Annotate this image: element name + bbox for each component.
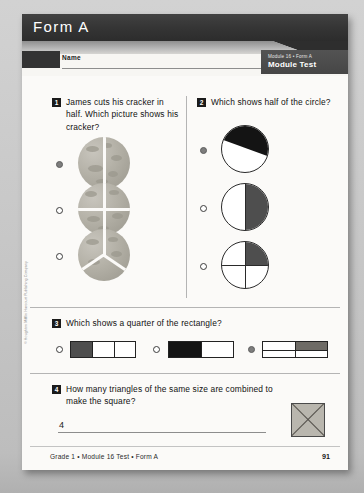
name-label: Name: [62, 54, 81, 61]
badge-module-form: Module 16 • Form A: [268, 53, 348, 60]
name-input-line[interactable]: [62, 68, 278, 69]
name-field-row: Name: [62, 54, 280, 71]
q3-choice-2-figure[interactable]: [168, 341, 234, 358]
q1-choice-3-bullet[interactable]: [56, 253, 63, 260]
question-4-figure-square: [291, 403, 325, 437]
rect-shaded-half: [169, 342, 201, 357]
q3-choice-3-bullet[interactable]: [248, 346, 255, 353]
question-4-answer[interactable]: 4: [59, 420, 64, 430]
page-title: Form A: [33, 18, 90, 35]
q3-choice-2-bullet[interactable]: [153, 346, 160, 353]
q1-choice-1-bullet[interactable]: [56, 161, 63, 168]
rect-divider: [114, 342, 115, 357]
q3-choice-1-bullet[interactable]: [56, 346, 63, 353]
q3-choice-1-figure[interactable]: [70, 341, 136, 358]
question-4-text: How many triangles of the same size are …: [66, 383, 281, 408]
rect-divider: [201, 342, 202, 357]
q1-choice-2-figure[interactable]: [78, 183, 130, 235]
q2-choice-1-bullet[interactable]: [200, 147, 207, 154]
q1-choice-1-figure[interactable]: [78, 137, 130, 189]
section-divider-1: [30, 307, 340, 308]
column-divider: [186, 96, 187, 298]
page-footer: Grade 1 • Module 16 Test • Form A 91: [22, 446, 348, 470]
copyright-notice: © Houghton Mifflin Harcourt Publishing C…: [24, 261, 28, 344]
section-divider-2: [30, 373, 340, 374]
worksheet-body: © Houghton Mifflin Harcourt Publishing C…: [22, 76, 348, 470]
question-4-number: 4: [52, 385, 61, 394]
q2-choice-2-bullet[interactable]: [200, 205, 207, 212]
q1-choice-2-bullet[interactable]: [56, 207, 63, 214]
rect-shaded-third: [71, 342, 92, 357]
cracker-thirds: [78, 229, 130, 281]
question-2-text: Which shows half of the circle?: [211, 96, 339, 108]
q2-choice-3-figure[interactable]: [221, 241, 269, 289]
circle-quarter-shading: [245, 242, 268, 265]
question-1-text: James cuts his cracker in half. Which pi…: [66, 96, 181, 133]
q2-choice-2-figure[interactable]: [221, 183, 269, 231]
rect-shaded-quarter: [295, 342, 327, 350]
footer-label: Grade 1 • Module 16 Test • Form A: [50, 453, 158, 460]
circle-horizontal-line: [222, 265, 268, 266]
q1-choice-3-figure[interactable]: [78, 229, 130, 281]
circle-diagonal-shading: [221, 125, 269, 161]
rect-divider: [92, 342, 93, 357]
question-2-number: 2: [197, 98, 206, 107]
page-header-bar: Form A: [22, 14, 348, 41]
module-test-badge: Module 16 • Form A Module Test: [261, 50, 348, 74]
q2-choice-1-figure[interactable]: [221, 125, 269, 173]
question-1-number: 1: [52, 98, 61, 107]
header-corner-tab: [22, 51, 60, 68]
circle-vertical-line: [245, 184, 246, 230]
rect-divider: [263, 350, 327, 351]
circle-right-half-shading: [245, 184, 268, 230]
worksheet-page: Form A Name Module 16 • Form A Module Te…: [22, 14, 348, 470]
badge-module-test: Module Test: [268, 60, 348, 70]
footer-divider: [30, 446, 340, 447]
cracker-quarters: [78, 183, 130, 235]
question-4-answer-line[interactable]: [58, 432, 266, 433]
page-number: 91: [322, 452, 330, 461]
question-3-text: Which shows a quarter of the rectangle?: [66, 317, 326, 329]
q2-choice-3-bullet[interactable]: [200, 263, 207, 270]
question-3-number: 3: [52, 319, 61, 328]
q3-choice-3-figure[interactable]: [262, 341, 328, 358]
cracker-halves: [78, 137, 130, 189]
